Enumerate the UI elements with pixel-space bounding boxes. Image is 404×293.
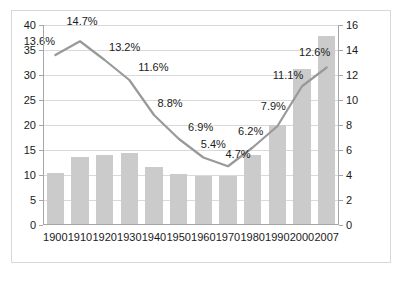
plot-wrapper: 13.6%14.7%13.2%11.6%8.8%6.9%5.4%4.7%6.2%… [12, 11, 390, 262]
x-tick-label-2007: 2007 [314, 231, 339, 243]
x-tick-label-1920: 1920 [92, 231, 117, 243]
x-tick-label-1950: 1950 [166, 231, 191, 243]
data-label-2007: 12.6% [299, 46, 330, 58]
y-tick-right [339, 175, 343, 176]
bar-1910 [71, 157, 88, 224]
x-tick-label-2000: 2000 [290, 231, 315, 243]
y-tick-label-left-40: 40 [24, 20, 36, 31]
y-axis-left-line [43, 25, 44, 225]
x-tick-label-1910: 1910 [68, 231, 93, 243]
bar-1900 [47, 173, 64, 224]
y-tick-label-right-4: 4 [346, 170, 352, 181]
y-tick-right [339, 100, 343, 101]
gridline [43, 50, 339, 51]
data-label-1960: 5.4% [201, 138, 226, 150]
y-tick-label-left-20: 20 [24, 120, 36, 131]
bar-1940 [145, 167, 162, 225]
bar-1980 [244, 155, 261, 225]
x-tick-label-1960: 1960 [191, 231, 216, 243]
y-tick-right [339, 150, 343, 151]
line-path [55, 41, 326, 166]
x-tick-label-1970: 1970 [216, 231, 241, 243]
data-label-1920: 13.2% [109, 41, 140, 53]
plot-area: 13.6%14.7%13.2%11.6%8.8%6.9%5.4%4.7%6.2%… [43, 25, 339, 225]
y-tick-right [339, 225, 343, 226]
y-tick-right [339, 25, 343, 26]
data-label-1970: 4.7% [225, 148, 250, 160]
x-tick-label-1940: 1940 [142, 231, 167, 243]
y-tick-label-left-5: 5 [30, 195, 36, 206]
data-label-1910: 14.7% [66, 15, 97, 27]
y-tick-left [39, 150, 43, 151]
y-tick-label-right-0: 0 [346, 220, 352, 231]
y-tick-left [39, 100, 43, 101]
data-label-1980: 6.2% [238, 125, 263, 137]
y-tick-right [339, 125, 343, 126]
bar-1960 [195, 176, 212, 224]
x-tick-label-1990: 1990 [265, 231, 290, 243]
y-tick-left [39, 225, 43, 226]
bar-1950 [170, 174, 187, 225]
y-tick-left [39, 200, 43, 201]
data-label-2000: 11.1% [273, 69, 303, 81]
chart-figure: 13.6%14.7%13.2%11.6%8.8%6.9%5.4%4.7%6.2%… [11, 10, 391, 263]
data-label-1990: 7.9% [261, 100, 286, 112]
y-tick-left [39, 125, 43, 126]
y-tick-left [39, 75, 43, 76]
y-tick-label-right-10: 10 [346, 95, 358, 106]
y-tick-right [339, 200, 343, 201]
y-tick-label-right-8: 8 [346, 120, 352, 131]
x-axis-line [43, 224, 339, 225]
y-tick-label-left-15: 15 [24, 145, 36, 156]
y-tick-label-left-10: 10 [24, 170, 36, 181]
y-tick-label-right-14: 14 [346, 45, 358, 56]
y-tick-left [39, 50, 43, 51]
bar-1970 [219, 176, 236, 224]
bar-2000 [293, 69, 310, 225]
data-label-1930: 11.6% [138, 61, 168, 73]
y-tick-label-right-6: 6 [346, 145, 352, 156]
data-label-1940: 8.8% [157, 97, 182, 109]
bar-1990 [269, 125, 286, 224]
y-tick-label-right-2: 2 [346, 195, 352, 206]
y-tick-label-left-25: 25 [24, 95, 36, 106]
y-tick-right [339, 50, 343, 51]
y-tick-label-left-0: 0 [30, 220, 36, 231]
y-tick-label-left-30: 30 [24, 70, 36, 81]
bar-1920 [96, 155, 113, 224]
y-tick-label-left-35: 35 [24, 45, 36, 56]
y-tick-label-right-16: 16 [346, 20, 358, 31]
data-label-1950: 6.9% [188, 121, 213, 133]
x-tick-label-1980: 1980 [240, 231, 265, 243]
bar-2007 [318, 36, 335, 224]
y-tick-left [39, 25, 43, 26]
bar-1930 [121, 153, 138, 224]
y-tick-right [339, 75, 343, 76]
y-tick-label-right-12: 12 [346, 70, 358, 81]
x-tick-label-1900: 1900 [43, 231, 68, 243]
y-tick-left [39, 175, 43, 176]
x-tick-label-1930: 1930 [117, 231, 142, 243]
